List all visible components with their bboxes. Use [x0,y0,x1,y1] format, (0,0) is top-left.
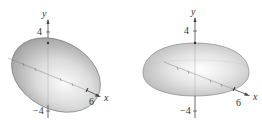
dome-right-graphic [131,0,262,125]
y-axis-label: y [42,9,46,19]
x-tick-right: 6 [89,97,94,107]
figure-right: y 4 −4 6 x [131,0,262,125]
y-tick-top: 4 [37,27,42,37]
y-tick-bottom: −4 [180,106,191,116]
figure-left: y 4 −4 6 x [0,0,131,125]
y-tick-top: 4 [184,26,189,36]
y-tick-bottom: −4 [33,106,44,116]
x-axis-label: x [104,93,108,103]
ellipsoid-left-graphic [0,0,131,125]
x-axis-label: x [253,92,257,102]
y-axis-label: y [191,7,195,17]
x-tick-right: 6 [236,98,241,108]
